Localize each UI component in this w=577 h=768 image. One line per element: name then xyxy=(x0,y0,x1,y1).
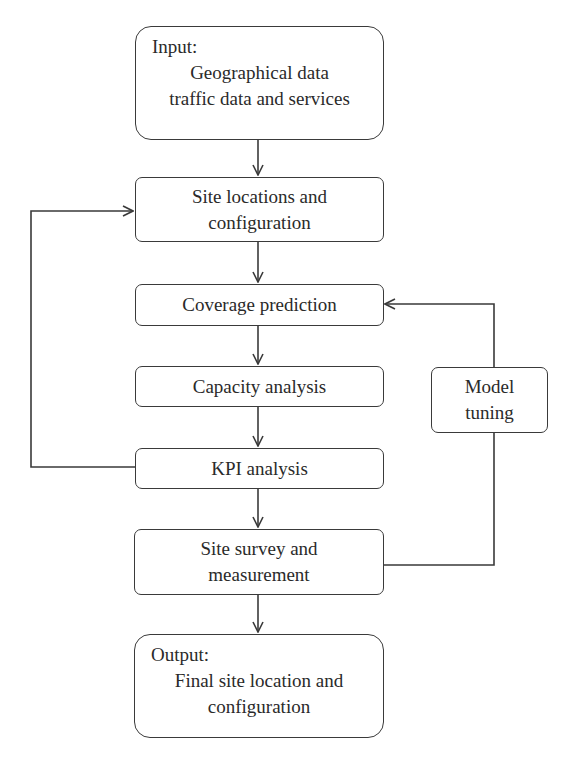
site-locations-line-2: configuration xyxy=(208,210,310,236)
site-survey-line-1: Site survey and xyxy=(200,536,317,562)
input-label: Input: xyxy=(152,34,197,60)
site-survey-box: Site survey and measurement xyxy=(134,529,384,595)
input-line-2: traffic data and services xyxy=(169,86,350,112)
site-locations-box: Site locations and configuration xyxy=(135,177,384,242)
output-line-1: Final site location and xyxy=(175,668,343,694)
coverage-prediction-box: Coverage prediction xyxy=(135,284,384,326)
kpi-analysis-box: KPI analysis xyxy=(135,448,384,489)
capacity-analysis-box: Capacity analysis xyxy=(135,366,384,407)
kpi-analysis-label: KPI analysis xyxy=(211,456,308,482)
input-box: Input: Geographical data traffic data an… xyxy=(135,26,384,140)
line-survey-to-model xyxy=(384,433,494,565)
output-label: Output: xyxy=(151,642,209,668)
model-tuning-line-2: tuning xyxy=(465,400,514,426)
output-box: Output: Final site location and configur… xyxy=(134,634,384,738)
site-locations-line-1: Site locations and xyxy=(192,184,327,210)
coverage-prediction-label: Coverage prediction xyxy=(182,292,337,318)
model-tuning-box: Model tuning xyxy=(431,367,548,433)
arrow-model-to-coverage xyxy=(385,304,494,367)
capacity-analysis-label: Capacity analysis xyxy=(193,374,327,400)
site-survey-line-2: measurement xyxy=(208,562,309,588)
output-line-2: configuration xyxy=(208,694,310,720)
model-tuning-line-1: Model xyxy=(465,374,515,400)
input-line-1: Geographical data xyxy=(190,60,329,86)
arrow-kpi-feedback-to-site xyxy=(31,211,135,467)
